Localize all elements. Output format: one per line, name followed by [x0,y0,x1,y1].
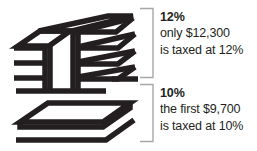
tier-lower-rate: 10% [160,85,257,101]
tier-lower-detail-1: the first $9,700 [160,101,257,118]
tier-text-column: 12% only $12,300 is taxed at 12% 10% the… [160,0,257,151]
tier-upper-detail-1: only $12,300 [160,25,257,42]
tier-lower: 10% the first $9,700 is taxed at 10% [160,85,257,135]
tier-upper-rate: 12% [160,9,257,25]
tier-upper: 12% only $12,300 is taxed at 12% [160,9,257,59]
slab-left-edges [14,48,46,78]
slab-wedge-slice [45,32,78,91]
tax-bracket-infographic: 12% only $12,300 is taxed at 12% 10% the… [0,0,257,151]
bracket-upper [140,9,153,78]
tier-lower-detail-2: is taxed at 10% [160,118,257,135]
bracket-group [138,0,158,151]
slab-stack-illustration [0,0,145,151]
tier-upper-detail-2: is taxed at 12% [160,42,257,59]
bracket-lower [140,85,153,142]
